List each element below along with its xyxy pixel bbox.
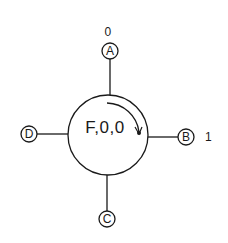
center-node[interactable]: F,0,0 <box>68 95 148 175</box>
center-node-label: F,0,0 <box>85 118 124 137</box>
port-d-label: D <box>25 127 34 141</box>
port-b-value: 1 <box>205 130 212 144</box>
port-a-value: 0 <box>105 25 112 39</box>
port-c[interactable]: C <box>99 211 115 227</box>
port-b-label: B <box>182 130 190 144</box>
port-d[interactable]: D <box>21 126 37 142</box>
port-a[interactable]: A <box>102 43 118 59</box>
port-diagram: F,0,0 A 0 B 1 C D <box>0 0 228 243</box>
port-c-label: C <box>103 212 112 226</box>
port-b[interactable]: B <box>178 129 194 145</box>
port-a-label: A <box>106 44 114 58</box>
